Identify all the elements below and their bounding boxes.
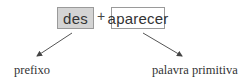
label-prefixo: prefixo [14, 63, 50, 78]
label-palavra-primitiva: palavra primitiva [152, 63, 238, 78]
arrow-to-prefixo [37, 33, 72, 56]
arrow-to-palavra-primitiva [143, 33, 182, 56]
